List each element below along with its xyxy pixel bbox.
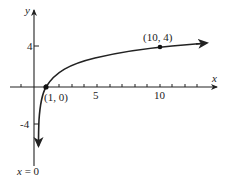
x-axis: x 5 10: [10, 72, 217, 101]
x-axis-label: x: [211, 72, 217, 84]
x-tick-label-10: 10: [154, 89, 166, 101]
curve-arrow-right: [196, 43, 207, 44]
point-10-4-label: (10, 4): [143, 31, 173, 44]
y-axis: y 4 -4: [20, 4, 39, 166]
y-tick-label-neg4: -4: [20, 118, 30, 130]
y-axis-label: y: [24, 4, 30, 16]
x-tick-label-5: 5: [93, 89, 99, 101]
asymptote-label: x = 0: [16, 165, 40, 177]
point-10-4: [158, 45, 163, 50]
point-1-0: [43, 84, 48, 89]
y-tick-label-4: 4: [27, 40, 33, 52]
log-graph: x 5 10 y 4 -4 (1, 0) (10, 4) x = 0: [0, 0, 230, 178]
point-1-0-label: (1, 0): [44, 91, 68, 104]
